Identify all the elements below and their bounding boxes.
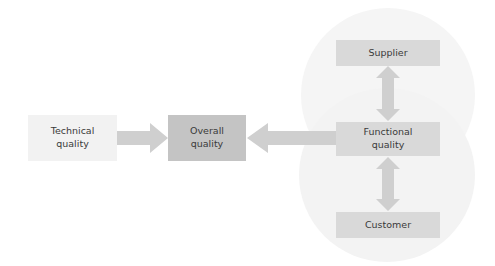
overall-label-line1: Overall	[190, 125, 224, 138]
node-overall-quality: Overall quality	[168, 115, 246, 161]
technical-label-line1: Technical	[51, 125, 95, 138]
node-customer: Customer	[336, 212, 440, 238]
node-functional-quality: Functional quality	[336, 122, 440, 156]
technical-label-line2: quality	[51, 138, 95, 151]
arrow-functional-to-overall	[247, 123, 336, 153]
arrow-functional-customer	[376, 157, 400, 211]
customer-label: Customer	[365, 219, 411, 232]
arrow-technical-to-overall	[117, 123, 168, 153]
node-supplier: Supplier	[336, 40, 440, 66]
overall-label-line2: quality	[190, 138, 224, 151]
supplier-label: Supplier	[368, 47, 407, 60]
arrow-supplier-functional	[376, 66, 400, 121]
functional-label-line1: Functional	[364, 126, 413, 139]
functional-label-line2: quality	[364, 139, 413, 152]
node-technical-quality: Technical quality	[28, 115, 117, 161]
